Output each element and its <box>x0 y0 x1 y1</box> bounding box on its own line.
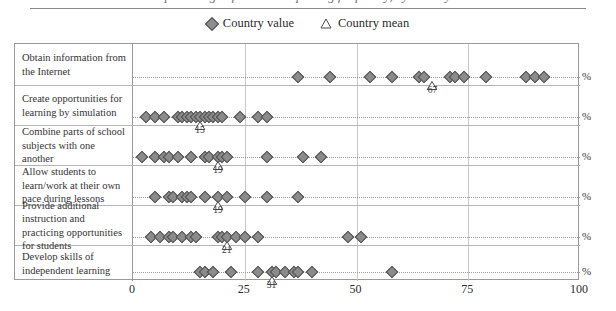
row-baseline <box>133 77 580 78</box>
vertical-gridline <box>468 126 469 165</box>
row-unit-label: % <box>582 190 591 202</box>
vertical-gridline <box>357 126 358 165</box>
row-label-5: Develop skills of independent learning <box>15 246 133 281</box>
data-point-diamond <box>238 191 251 204</box>
row-plot-area: 19 <box>133 166 580 205</box>
row-label-2: Combine parts of school subjects with on… <box>15 126 133 165</box>
data-point-diamond <box>305 266 318 279</box>
vertical-gridline <box>468 86 469 125</box>
x-axis: 0255075100 <box>132 280 579 306</box>
data-point-diamond <box>185 151 198 164</box>
vertical-gridline <box>468 206 469 245</box>
data-point-diamond <box>261 191 274 204</box>
row-unit-label: % <box>582 230 591 242</box>
data-point-diamond <box>252 266 265 279</box>
chart-row: Obtain information from the Internet67 <box>15 44 580 86</box>
vertical-gridline <box>245 86 246 125</box>
row-plot-area: 31 <box>133 246 580 281</box>
x-axis-tick-label: 0 <box>129 282 135 297</box>
chart-row: Combine parts of school subjects with on… <box>15 126 580 166</box>
vertical-gridline <box>357 44 358 85</box>
data-point-diamond <box>149 191 162 204</box>
row-unit-label: % <box>582 265 591 277</box>
chart-row: Provide additional instruction and pract… <box>15 206 580 246</box>
legend-label-country-value: Country value <box>223 16 294 31</box>
data-point-diamond <box>238 231 251 244</box>
cropped-caption-text: percentage of teachers reporting frequen… <box>38 0 578 4</box>
row-plot-area: 67 <box>133 44 580 85</box>
x-axis-tick-label: 25 <box>238 282 250 297</box>
vertical-gridline <box>468 246 469 281</box>
vertical-gridline <box>468 166 469 205</box>
data-point-diamond <box>292 191 305 204</box>
vertical-gridline <box>245 44 246 85</box>
row-label-1: Create opportunities for learning by sim… <box>15 86 133 125</box>
chart-plot-area: Obtain information from the Internet67Cr… <box>14 43 579 280</box>
data-point-diamond <box>323 71 336 84</box>
caption-rule <box>30 8 586 9</box>
row-unit-label: % <box>582 150 591 162</box>
row-label-0: Obtain information from the Internet <box>15 44 133 85</box>
triangle-marker-icon <box>320 18 332 29</box>
row-plot-area: 19 <box>133 126 580 165</box>
legend-item-country-value: Country value <box>207 16 294 31</box>
x-axis-tick-label: 75 <box>461 282 473 297</box>
data-point-diamond <box>198 191 211 204</box>
row-plot-area: 21 <box>133 206 580 245</box>
x-axis-tick-label: 100 <box>570 282 588 297</box>
vertical-gridline <box>245 126 246 165</box>
row-unit-label: % <box>582 110 591 122</box>
data-point-diamond <box>261 151 274 164</box>
vertical-gridline <box>357 86 358 125</box>
chart-row: Create opportunities for learning by sim… <box>15 86 580 126</box>
data-point-diamond <box>261 111 274 124</box>
cropped-caption-line: percentage of teachers reporting frequen… <box>38 0 578 8</box>
row-unit-label: % <box>582 70 591 82</box>
data-point-diamond <box>158 111 171 124</box>
chart-legend: Country value Country mean <box>0 16 616 31</box>
data-point-diamond <box>225 266 238 279</box>
vertical-gridline <box>357 166 358 205</box>
data-point-diamond <box>252 231 265 244</box>
row-label-4: Provide additional instruction and pract… <box>15 206 133 245</box>
data-point-diamond <box>480 71 493 84</box>
data-point-diamond <box>171 151 184 164</box>
data-point-diamond <box>364 71 377 84</box>
vertical-gridline <box>245 246 246 281</box>
data-point-diamond <box>292 71 305 84</box>
legend-item-country-mean: Country mean <box>320 16 409 31</box>
x-axis-tick-label: 50 <box>350 282 362 297</box>
legend-label-country-mean: Country mean <box>338 16 409 31</box>
data-point-diamond <box>386 266 399 279</box>
diamond-marker-icon <box>205 16 219 30</box>
chart-row: Develop skills of independent learning31 <box>15 246 580 281</box>
data-point-diamond <box>314 151 327 164</box>
data-point-diamond <box>296 151 309 164</box>
row-plot-area: 15 <box>133 86 580 125</box>
vertical-gridline <box>357 246 358 281</box>
data-point-diamond <box>136 151 149 164</box>
data-point-diamond <box>207 266 220 279</box>
data-point-diamond <box>538 71 551 84</box>
data-point-diamond <box>386 71 399 84</box>
data-point-diamond <box>341 231 354 244</box>
